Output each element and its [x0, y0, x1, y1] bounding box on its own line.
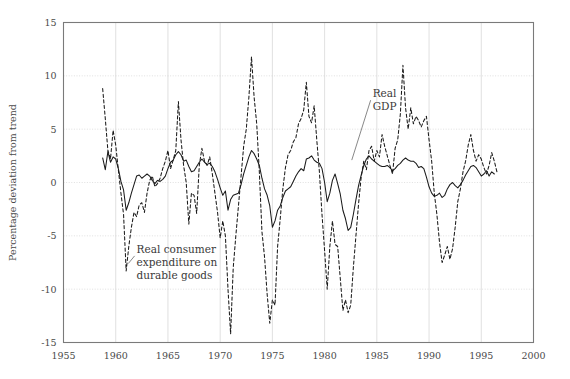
y-tick-label: 15 — [44, 17, 56, 28]
y-tick-label: 5 — [50, 124, 56, 135]
y-axis-title: Percentage deviation from trend — [7, 104, 18, 261]
x-tick-label: 1990 — [417, 350, 441, 361]
annotation-real-gdp: RealGDP — [373, 87, 397, 112]
x-tick-label: 1980 — [313, 350, 337, 361]
x-tick-label: 1995 — [469, 350, 493, 361]
chart-svg: RealGDPReal consumerexpenditure ondurabl… — [0, 0, 570, 379]
x-tick-label: 1975 — [260, 350, 284, 361]
chart-figure: RealGDPReal consumerexpenditure ondurabl… — [0, 0, 570, 379]
annotations: RealGDPReal consumerexpenditure ondurabl… — [128, 87, 397, 281]
x-tick-label: 1955 — [51, 350, 75, 361]
axis-labels: 1955196019651970197519801985199019952000… — [7, 17, 546, 361]
annotation-real-consumer-expenditure: Real consumerexpenditure ondurable goods — [137, 243, 218, 281]
x-tick-label: 1965 — [156, 350, 180, 361]
y-tick-label: 0 — [50, 177, 56, 188]
x-tick-label: 1970 — [208, 350, 232, 361]
series-line-real-consumer-expenditure-on-durable-goods — [103, 57, 497, 334]
y-tick-label: -10 — [41, 284, 56, 295]
y-tick-label: -15 — [41, 337, 56, 348]
y-tick-label: -5 — [47, 230, 56, 241]
annotation-leader-line — [128, 256, 134, 264]
x-tick-label: 2000 — [521, 350, 545, 361]
series-line-real-gdp — [103, 151, 495, 231]
y-tick-label: 10 — [44, 70, 56, 81]
x-tick-label: 1985 — [365, 350, 389, 361]
annotation-leader-line — [352, 100, 371, 160]
gridlines — [64, 23, 534, 343]
data-series — [103, 57, 497, 334]
x-tick-label: 1960 — [104, 350, 128, 361]
